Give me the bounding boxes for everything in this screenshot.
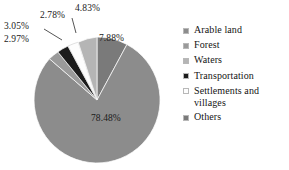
legend-label-line1: Settlements and <box>194 85 259 96</box>
legend-swatch-icon <box>183 43 189 49</box>
legend-label-line2: villages <box>194 97 226 108</box>
legend-swatch-icon <box>183 58 189 64</box>
legend-label: Settlements andvillages <box>194 85 259 109</box>
legend-label: Others <box>194 111 221 123</box>
legend-label: Transportation <box>194 70 254 82</box>
legend-label: Waters <box>194 54 222 66</box>
legend-item-forest[interactable]: Forest <box>183 39 287 51</box>
slice-label-transportation: 3.05% <box>4 21 29 31</box>
slice-label-arable-land: 78.48% <box>91 113 121 123</box>
legend-item-transportation[interactable]: Transportation <box>183 70 287 82</box>
legend-swatch-icon <box>183 73 189 79</box>
legend-label: Arable land <box>194 24 242 36</box>
legend-item-settlements-and-villages[interactable]: Settlements andvillages <box>183 85 287 109</box>
leader-line-transportation <box>44 29 62 40</box>
leader-lines <box>44 18 76 40</box>
legend-item-arable-land[interactable]: Arable land <box>183 24 287 36</box>
legend-item-waters[interactable]: Waters <box>183 54 287 66</box>
pie-chart: 7.88% 78.48% 4.83% 2.78% 3.05% 2.97% Ara… <box>0 0 289 170</box>
slice-label-waters: 4.83% <box>75 3 100 13</box>
legend-item-others[interactable]: Others <box>183 111 287 123</box>
legend-swatch-icon <box>183 115 189 121</box>
legend: Arable land Forest Waters Transportation… <box>183 24 287 127</box>
slice-label-settlements: 2.78% <box>40 10 65 20</box>
leader-line-settlements <box>72 18 76 33</box>
legend-swatch-icon <box>183 88 189 94</box>
slice-label-others: 7.88% <box>99 33 124 43</box>
slice-label-forest: 2.97% <box>4 34 29 44</box>
pie-slices <box>34 37 160 163</box>
legend-swatch-icon <box>183 28 189 34</box>
legend-label: Forest <box>194 39 220 51</box>
